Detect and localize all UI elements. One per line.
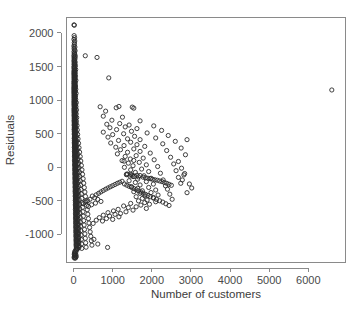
y-axis-tick-label: 0 [47,161,53,173]
data-point [120,115,124,119]
data-point [176,159,180,163]
x-axis-tick-label: 3000 [179,274,203,286]
data-point [138,138,142,142]
data-point [118,121,122,125]
data-point [123,154,127,158]
data-point [140,167,144,171]
data-point [122,204,126,208]
x-axis-tick-label: 0 [70,274,76,286]
data-point [179,146,183,150]
data-point [126,161,130,165]
data-point [98,105,102,109]
data-point [161,142,165,146]
data-point [133,180,137,184]
data-point [129,129,133,133]
data-point [165,187,169,191]
data-point [116,207,120,211]
x-axis-title: Number of customers [151,288,261,300]
data-point [138,119,142,123]
data-point [145,131,149,135]
data-point [173,139,177,143]
data-point [166,133,170,137]
data-point [106,135,110,139]
data-point [114,128,118,132]
data-point [159,128,163,132]
y-axis-tick-label: 2000 [29,27,53,39]
data-point [83,54,87,58]
y-axis-tick-label: 500 [35,128,53,140]
data-point [101,130,105,134]
data-point [87,221,91,225]
x-axis-tick-label: 2000 [140,274,164,286]
data-point [151,182,155,186]
y-axis: -1000-5000500100015002000 [25,27,61,240]
data-point [84,245,88,249]
data-point [147,185,151,189]
data-point [118,148,122,152]
data-point [154,136,158,140]
data-point [147,202,151,206]
data-point [187,182,191,186]
data-point [124,210,128,214]
data-point [107,76,111,80]
data-point [185,191,189,195]
data-point [129,168,133,172]
data-point [154,188,158,192]
data-point [135,143,139,147]
data-point [122,165,126,169]
data-point [170,197,174,201]
data-point [156,193,160,197]
data-point [176,175,180,179]
data-point [95,55,99,59]
data-point [99,199,103,203]
data-point [123,125,127,129]
plot-frame [67,18,346,263]
data-point [156,164,160,168]
data-point [96,242,100,246]
data-point [129,201,133,205]
data-point [190,186,194,190]
data-point [84,241,88,245]
data-point [139,203,143,207]
data-point [80,196,84,200]
data-point [104,109,108,113]
plot-area-border [67,18,346,263]
data-point [144,206,148,210]
data-point [80,246,84,250]
data-point [86,217,90,221]
x-axis-tick-label: 6000 [296,274,320,286]
data-point [110,118,114,122]
data-point [141,156,145,160]
data-point [86,212,90,216]
data-point [179,166,183,170]
data-point [101,114,105,118]
data-point [183,153,187,157]
data-point [104,216,108,220]
data-point [88,230,92,234]
data-point [116,138,120,142]
data-point [185,138,189,142]
data-point [330,88,334,92]
data-point [91,221,95,225]
data-point [131,164,135,168]
data-point [158,171,162,175]
data-point [134,154,138,158]
data-point [138,149,142,153]
data-point [132,134,136,138]
x-axis: 0100020003000400050006000 [70,268,320,286]
data-points-layer [72,23,334,261]
data-point [144,163,148,167]
data-point [115,152,119,156]
y-axis-tick-label: -500 [31,195,53,207]
data-point [143,144,147,148]
data-point [122,132,126,136]
data-point [109,141,113,145]
data-point [90,243,94,247]
data-point [111,217,115,221]
x-axis-tick-label: 4000 [218,274,242,286]
data-point [114,145,118,149]
scatter-plot-figure: 0100020003000400050006000 -1000-50005001… [0,0,359,311]
data-point [136,199,140,203]
data-point [172,162,176,166]
data-point [168,192,172,196]
